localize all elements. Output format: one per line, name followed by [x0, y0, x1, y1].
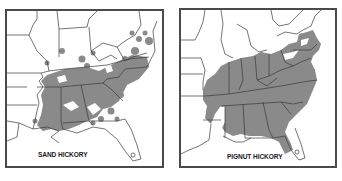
pignut-hickory-range-svg: [181, 10, 335, 166]
sand-hickory-range-svg: [7, 11, 162, 166]
pignut-hickory-range: [203, 30, 321, 154]
pignut-hickory-map: PIGNUT HICKORY: [179, 8, 337, 168]
map-label-pignut-hickory: PIGNUT HICKORY: [227, 152, 282, 161]
sand-hickory-map: SAND HICKORY: [5, 9, 164, 168]
sand-hickory-range: [33, 31, 154, 132]
map-label-sand-hickory: SAND HICKORY: [38, 150, 87, 159]
